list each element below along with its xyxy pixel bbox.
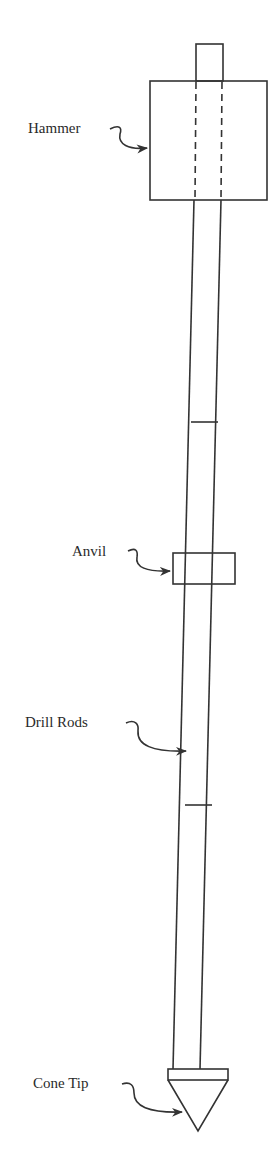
drill-rods [173,200,221,1069]
anvil-label-group: Anvil [72,543,170,571]
anvil-arrow-icon [128,549,170,571]
drill-rods-arrow-icon [126,722,186,752]
cone-tip-label: Cone Tip [33,1075,88,1091]
anvil [173,553,235,584]
drill-rods-label-group: Drill Rods [25,714,186,751]
hammer [150,81,267,200]
guide-rod-top [196,44,223,81]
cone-tip-label-group: Cone Tip [33,1075,182,1112]
hammer-arrow-icon [110,127,147,149]
cone-tip [168,1069,228,1131]
hammer-label-group: Hammer [28,120,147,148]
drill-rods-label: Drill Rods [25,714,88,730]
penetrometer-diagram: Hammer Anvil Drill Rods Cone Tip [0,0,270,1165]
hammer-label: Hammer [28,120,80,136]
anvil-label: Anvil [72,543,106,559]
